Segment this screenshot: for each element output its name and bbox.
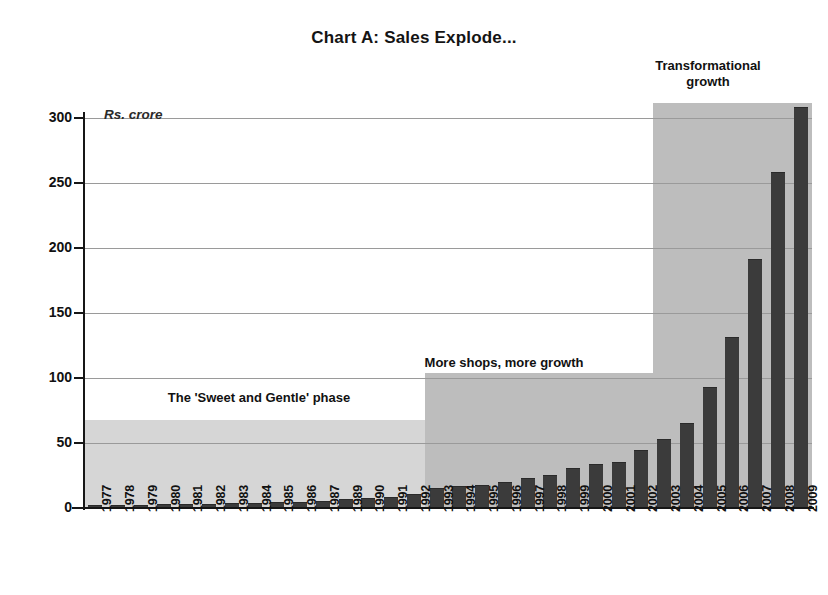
y-axis-label-0: 0 xyxy=(26,499,72,515)
x-axis-label-1996: 1996 xyxy=(510,485,524,512)
x-axis-label-1995: 1995 xyxy=(487,485,501,512)
x-axis-label-1979: 1979 xyxy=(146,485,160,512)
x-axis-label-2004: 2004 xyxy=(692,485,706,512)
bar-2007 xyxy=(748,259,762,508)
x-axis-label-1990: 1990 xyxy=(373,485,387,512)
gridline-100 xyxy=(84,378,812,379)
plot-area xyxy=(84,103,812,508)
x-axis-label-1977: 1977 xyxy=(100,485,114,512)
gridline-200 xyxy=(84,248,812,249)
x-axis-label-2009: 2009 xyxy=(806,485,820,512)
x-axis-label-2008: 2008 xyxy=(783,485,797,512)
x-axis-label-1987: 1987 xyxy=(328,485,342,512)
y-axis-tick-100 xyxy=(74,377,85,379)
x-axis-label-2002: 2002 xyxy=(646,485,660,512)
x-axis-label-1983: 1983 xyxy=(237,485,251,512)
annotation-phase-3-line-2: growth xyxy=(604,74,812,90)
x-axis-label-1985: 1985 xyxy=(282,485,296,512)
x-axis-label-1999: 1999 xyxy=(578,485,592,512)
x-axis-label-2000: 2000 xyxy=(601,485,615,512)
x-axis-label-2007: 2007 xyxy=(760,485,774,512)
y-axis-label-250: 250 xyxy=(26,174,72,190)
annotation-phase-2: More shops, more growth xyxy=(398,355,610,370)
y-axis-tick-300 xyxy=(74,117,85,119)
x-axis-label-2001: 2001 xyxy=(624,485,638,512)
x-axis-label-1986: 1986 xyxy=(305,485,319,512)
x-axis-label-2003: 2003 xyxy=(669,485,683,512)
chart-container: Chart A: Sales Explode... 05010015020025… xyxy=(0,0,828,595)
x-axis-label-1989: 1989 xyxy=(351,485,365,512)
annotation-phase-3: Transformational growth xyxy=(604,58,812,91)
bar-2008 xyxy=(771,172,785,508)
bar-2006 xyxy=(725,337,739,508)
x-axis-label-1993: 1993 xyxy=(442,485,456,512)
y-axis-tick-50 xyxy=(74,442,85,444)
x-axis-label-2006: 2006 xyxy=(737,485,751,512)
gridline-300 xyxy=(84,118,812,119)
x-axis-label-1984: 1984 xyxy=(260,485,274,512)
x-axis-label-1981: 1981 xyxy=(191,485,205,512)
x-axis-label-1982: 1982 xyxy=(214,485,228,512)
y-axis-label-150: 150 xyxy=(26,304,72,320)
y-axis-tick-150 xyxy=(74,312,85,314)
y-axis-label-100: 100 xyxy=(26,369,72,385)
annotation-phase-1: The 'Sweet and Gentle' phase xyxy=(131,390,387,405)
x-axis-label-1997: 1997 xyxy=(533,485,547,512)
y-axis-tick-0 xyxy=(74,507,85,509)
gridline-150 xyxy=(84,313,812,314)
x-axis-label-1980: 1980 xyxy=(169,485,183,512)
y-axis-label-300: 300 xyxy=(26,109,72,125)
y-axis-label-200: 200 xyxy=(26,239,72,255)
x-axis-label-1991: 1991 xyxy=(396,485,410,512)
x-axis-label-1998: 1998 xyxy=(555,485,569,512)
y-axis-labels: 050100150200250300 xyxy=(16,0,72,595)
annotation-phase-3-line-1: Transformational xyxy=(604,58,812,74)
x-axis-label-1992: 1992 xyxy=(419,485,433,512)
x-axis-label-1978: 1978 xyxy=(123,485,137,512)
y-axis-line xyxy=(83,112,85,510)
x-axis-label-1994: 1994 xyxy=(464,485,478,512)
x-axis-label-2005: 2005 xyxy=(715,485,729,512)
y-axis-tick-200 xyxy=(74,247,85,249)
gridline-250 xyxy=(84,183,812,184)
y-axis-label-50: 50 xyxy=(26,434,72,450)
chart-title: Chart A: Sales Explode... xyxy=(0,28,828,48)
y-axis-tick-250 xyxy=(74,182,85,184)
bar-2009 xyxy=(794,107,808,508)
units-note: Rs. crore xyxy=(104,107,163,122)
